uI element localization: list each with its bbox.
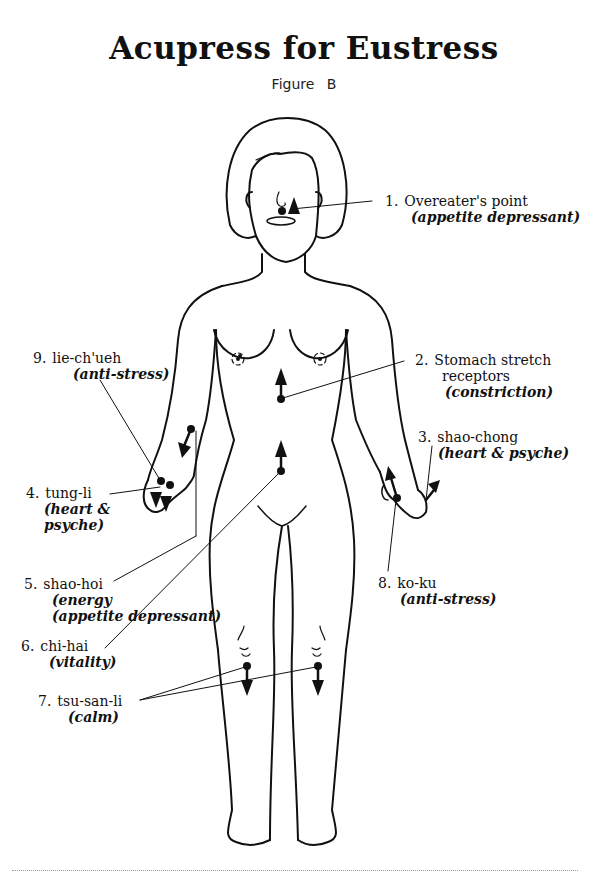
point-number: 4. xyxy=(26,485,39,501)
point-name: shao-hoi xyxy=(43,576,103,592)
label-point-6: 6.chi-hai (vitality) xyxy=(21,638,116,670)
label-point-8: 8.ko-ku (anti-stress) xyxy=(378,575,497,607)
leader-lines xyxy=(100,201,432,700)
point-number: 6. xyxy=(21,638,34,654)
point-number: 2. xyxy=(415,352,428,368)
point-name: Stomach stretch xyxy=(434,352,551,368)
point-number: 3. xyxy=(418,429,431,445)
label-point-4: 4.tung-li (heart & psyche) xyxy=(26,485,110,533)
point-desc: (anti-stress) xyxy=(378,591,497,607)
right-arm-inner xyxy=(346,330,380,472)
label-point-1: 1.Overeater's point (appetite depressant… xyxy=(385,193,580,225)
point-number: 8. xyxy=(378,575,391,591)
mouth xyxy=(267,217,295,225)
point-number: 5. xyxy=(24,576,37,592)
point-desc: (appetite depressant) xyxy=(385,209,580,225)
point-6-marker xyxy=(275,440,287,475)
label-point-3: 3.shao-chong (heart & psyche) xyxy=(418,429,569,461)
point-number: 1. xyxy=(385,193,398,209)
point-desc-line2: psyche) xyxy=(26,517,110,533)
point-name: ko-ku xyxy=(397,575,436,591)
point-name-line2: receptors xyxy=(415,368,553,384)
footer-divider xyxy=(12,870,578,871)
left-leg-inner xyxy=(270,526,282,840)
nose xyxy=(277,192,285,206)
point-name: tung-li xyxy=(45,485,91,501)
groin xyxy=(258,506,306,526)
point-desc: (heart & xyxy=(26,501,110,517)
point-name: shao-chong xyxy=(437,429,518,445)
breast-left xyxy=(214,330,274,358)
point-4-9-markers xyxy=(150,477,174,512)
right-leg-inner xyxy=(288,526,298,840)
right-leg-outer xyxy=(298,650,346,845)
torso-right xyxy=(332,330,354,650)
label-point-2: 2.Stomach stretch receptors (constrictio… xyxy=(415,352,553,400)
left-leg-outer xyxy=(218,650,270,845)
point-desc-line2: (appetite depressant) xyxy=(24,608,221,624)
label-point-7: 7.tsu-san-li (calm) xyxy=(38,693,122,725)
point-number: 7. xyxy=(38,693,51,709)
point-desc: (anti-stress) xyxy=(33,366,170,382)
left-arm-inner xyxy=(194,330,216,475)
point-number: 9. xyxy=(33,350,46,366)
point-name: chi-hai xyxy=(40,638,88,654)
point-name: lie-ch'ueh xyxy=(52,350,121,366)
point-desc: (vitality) xyxy=(21,654,116,670)
point-5-marker xyxy=(178,425,195,458)
point-desc: (calm) xyxy=(38,709,122,725)
point-name: tsu-san-li xyxy=(57,693,122,709)
point-desc: (energy xyxy=(24,592,221,608)
hair-outline xyxy=(227,118,347,238)
label-point-9: 9.lie-ch'ueh (anti-stress) xyxy=(33,350,170,382)
breast-right xyxy=(290,330,348,358)
point-desc: (heart & psyche) xyxy=(418,445,569,461)
right-arm-outer xyxy=(350,286,418,490)
label-point-5: 5.shao-hoi (energy (appetite depressant) xyxy=(24,576,221,624)
point-desc: (constriction) xyxy=(415,384,553,400)
point-name: Overeater's point xyxy=(404,193,528,209)
point-8-marker xyxy=(385,466,401,502)
